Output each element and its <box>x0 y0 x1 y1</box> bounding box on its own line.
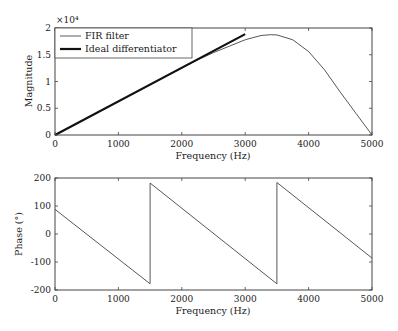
legend-label-ideal-differentiator: Ideal differentiator <box>85 43 177 54</box>
magnitude-ytick-label: 0 <box>45 130 51 140</box>
magnitude-ytick-label: 1.5 <box>37 50 52 60</box>
phase-xtick-label: 4000 <box>297 294 320 304</box>
legend: FIR filter Ideal differentiator <box>55 28 192 58</box>
magnitude-xtick-label: 1000 <box>107 139 130 149</box>
magnitude-xlabel: Frequency (Hz) <box>175 150 250 161</box>
phase-xtick-label: 5000 <box>361 294 384 304</box>
magnitude-xtick-label: 3000 <box>234 139 257 149</box>
legend-label-fir-filter: FIR filter <box>85 30 129 41</box>
magnitude-ytick-label: 0.5 <box>37 103 52 113</box>
magnitude-ytick-label: 2 <box>45 23 51 33</box>
magnitude-xtick-label: 5000 <box>361 139 384 149</box>
magnitude-xtick-label: 4000 <box>297 139 320 149</box>
phase-ylabel: Phase (°) <box>13 212 24 256</box>
magnitude-xtick-label: 0 <box>52 139 58 149</box>
phase-xtick-label: 3000 <box>234 294 257 304</box>
phase-xlabel: Frequency (Hz) <box>175 305 250 316</box>
phase-curves <box>55 182 372 283</box>
phase-ytick-label: -200 <box>31 285 51 295</box>
magnitude-xtick-label: 2000 <box>170 139 193 149</box>
chart-figure: 010002000300040005000 00.511.52 ×10⁴ Fre… <box>0 0 398 331</box>
phase-xtick-label: 0 <box>52 294 58 304</box>
phase-ytick-label: -100 <box>31 257 51 267</box>
phase-xticks: 010002000300040005000 <box>52 178 384 304</box>
phase-yticks: -200-1000100200 <box>31 173 372 295</box>
phase-ytick-label: 0 <box>45 229 51 239</box>
magnitude-ylabel: Magnitude <box>23 54 34 107</box>
phase-ytick-label: 200 <box>34 173 51 183</box>
magnitude-ytick-label: 1 <box>45 77 51 87</box>
phase-xtick-label: 2000 <box>170 294 193 304</box>
phase-xtick-label: 1000 <box>107 294 130 304</box>
magnitude-y-multiplier: ×10⁴ <box>56 15 79 25</box>
magnitude-plot: 010002000300040005000 00.511.52 ×10⁴ Fre… <box>23 15 384 161</box>
phase-plot: 010002000300040005000 -200-1000100200 Fr… <box>13 173 384 316</box>
phase-ytick-label: 100 <box>34 201 51 211</box>
phase-series-phase <box>55 182 372 283</box>
